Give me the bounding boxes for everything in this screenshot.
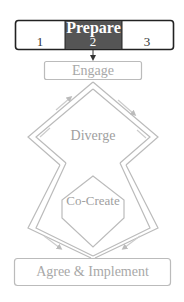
co-create-diamond (28, 163, 158, 258)
diverge-diamond (28, 82, 158, 165)
co-create-label: Co-Create (56, 193, 130, 209)
stage-step-2[interactable]: 2 (86, 35, 100, 49)
diverge-label: Diverge (50, 127, 136, 144)
agree-implement-label: Agree & Implement (14, 263, 171, 280)
co-create-hexagon (62, 176, 124, 247)
stage-step-3[interactable]: 3 (140, 35, 154, 49)
engage-label: Engage (44, 62, 142, 79)
stage-step-1[interactable]: 1 (33, 35, 47, 49)
